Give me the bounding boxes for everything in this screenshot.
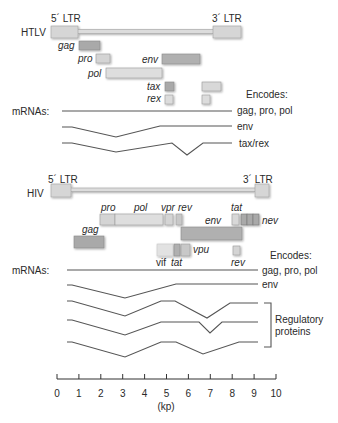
retrovirus-genome-diagram: 5´ LTR 3´ LTR HTLV gag pro pol env tax r… bbox=[0, 0, 338, 423]
hiv-vif-label: vif bbox=[156, 257, 166, 268]
hiv-rev-box-1 bbox=[176, 214, 182, 225]
regulatory-label-2: proteins bbox=[275, 326, 311, 337]
axis-tick-label: 7 bbox=[208, 388, 214, 399]
htlv-tax-box-1 bbox=[165, 82, 174, 91]
htlv-pro-box bbox=[96, 54, 110, 63]
hiv-mrna-line-4 bbox=[67, 320, 258, 335]
regulatory-bracket bbox=[264, 303, 271, 347]
hiv-nev-box-1 bbox=[241, 214, 247, 225]
hiv-mrna-line-3 bbox=[67, 301, 258, 318]
htlv-env-label: env bbox=[142, 54, 159, 65]
hiv-rev-label-2: rev bbox=[231, 257, 246, 268]
htlv-gag-box bbox=[79, 41, 100, 50]
hiv-nev-label: nev bbox=[262, 215, 279, 226]
htlv-rex-box-2 bbox=[202, 95, 210, 104]
htlv-mrnas-label: mRNAs: bbox=[12, 106, 49, 117]
hiv-pro-label: pro bbox=[100, 202, 116, 213]
axis-tick-label: 3 bbox=[120, 388, 126, 399]
hiv-5ltr-label: 5´ LTR bbox=[48, 174, 78, 185]
hiv-tat-box-1 bbox=[232, 214, 239, 225]
htlv-section: 5´ LTR 3´ LTR HTLV gag pro pol env tax r… bbox=[12, 13, 293, 155]
hiv-pro-box bbox=[100, 214, 115, 225]
htlv-mrna-encodes-3: tax/rex bbox=[239, 138, 269, 149]
hiv-mrnas-label: mRNAs: bbox=[12, 265, 49, 276]
hiv-pol-label: pol bbox=[133, 202, 148, 213]
hiv-gag-box bbox=[74, 236, 104, 248]
hiv-3ltr-box bbox=[255, 184, 269, 197]
axis-tick-label: 10 bbox=[270, 388, 282, 399]
htlv-5ltr-label: 5´ LTR bbox=[51, 13, 81, 24]
hiv-genome-bar bbox=[70, 188, 256, 192]
hiv-vpr-box bbox=[165, 214, 173, 225]
htlv-tax-box-2 bbox=[202, 82, 221, 91]
htlv-pro-label: pro bbox=[77, 53, 93, 64]
htlv-env-box bbox=[162, 54, 200, 64]
hiv-mrna-encodes-2: env bbox=[262, 279, 278, 290]
hiv-3ltr-label: 3´ LTR bbox=[243, 174, 273, 185]
hiv-label: HIV bbox=[27, 188, 44, 199]
hiv-vif-box bbox=[157, 244, 173, 256]
hiv-mrna-line-2 bbox=[67, 284, 258, 298]
htlv-3ltr-box bbox=[213, 26, 241, 38]
htlv-mrna-encodes-1: gag, pro, pol bbox=[237, 105, 293, 116]
hiv-vpu-box bbox=[181, 244, 190, 256]
axis-tick-label: 0 bbox=[54, 388, 60, 399]
hiv-section: 5´ LTR 3´ LTR HIV pro pol vpr rev tat bbox=[12, 174, 323, 357]
htlv-gag-label: gag bbox=[58, 40, 75, 51]
regulatory-label-1: Regulatory bbox=[275, 314, 323, 325]
axis-tick-label: 5 bbox=[164, 388, 170, 399]
hiv-tat-label-1: tat bbox=[231, 202, 243, 213]
htlv-3ltr-label: 3´ LTR bbox=[212, 13, 242, 24]
htlv-pol-box bbox=[106, 68, 162, 78]
hiv-tat-box-2 bbox=[174, 244, 180, 256]
htlv-encodes-heading: Encodes: bbox=[246, 89, 288, 100]
hiv-env-label: env bbox=[205, 215, 222, 226]
hiv-encodes-heading: Encodes: bbox=[270, 250, 312, 261]
hiv-5ltr-box bbox=[51, 184, 71, 197]
htlv-mrna-line-3 bbox=[62, 143, 232, 155]
axis-tick-label: 6 bbox=[186, 388, 192, 399]
htlv-mrna-line-2 bbox=[62, 126, 232, 137]
hiv-vpr-label: vpr bbox=[161, 202, 176, 213]
axis-tick-label: 1 bbox=[76, 388, 82, 399]
hiv-pol-box bbox=[115, 214, 163, 225]
hiv-tat-label-2: tat bbox=[171, 257, 183, 268]
axis-tick-label: 4 bbox=[142, 388, 148, 399]
hiv-env-box bbox=[181, 227, 242, 240]
hiv-mrna-encodes-1: gag, pro, pol bbox=[262, 265, 318, 276]
htlv-5ltr-box bbox=[51, 26, 78, 38]
hiv-nev-box-2 bbox=[247, 214, 253, 225]
hiv-gag-label: gag bbox=[82, 224, 99, 235]
htlv-rex-box-1 bbox=[165, 95, 173, 104]
axis-unit-label: (kp) bbox=[157, 401, 174, 412]
kb-axis: (kp) 012345678910 bbox=[54, 374, 282, 412]
hiv-vpu-label: vpu bbox=[193, 244, 210, 255]
htlv-label: HTLV bbox=[21, 27, 46, 38]
hiv-nev-box-3 bbox=[253, 214, 259, 225]
htlv-mrna-encodes-2: env bbox=[237, 121, 253, 132]
axis-tick-label: 9 bbox=[251, 388, 257, 399]
htlv-genome-bar bbox=[77, 30, 214, 34]
htlv-rex-label: rex bbox=[147, 93, 162, 104]
htlv-pol-label: pol bbox=[87, 68, 102, 79]
htlv-tax-label: tax bbox=[147, 81, 161, 92]
hiv-rev-label-1: rev bbox=[178, 202, 193, 213]
hiv-rev-box-2 bbox=[233, 246, 240, 255]
hiv-mrna-line-5 bbox=[67, 342, 258, 357]
axis-tick-label: 8 bbox=[229, 388, 235, 399]
axis-tick-label: 2 bbox=[98, 388, 104, 399]
